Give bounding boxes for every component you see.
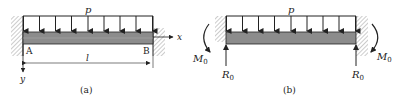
caption-a: (a) [80,85,92,95]
right-wall-hatch-b [356,16,368,56]
load-arrows-b [227,16,356,31]
left-wall-hatch-b [215,16,226,42]
figure-a: p x y A B l (a) [11,4,182,95]
reaction-label-right: R0 [351,69,364,82]
point-b-label: B [143,46,150,56]
y-axis-label: y [19,74,26,84]
moment-label-right: M0 [376,51,392,64]
load-arrows-a [24,16,153,31]
load-label-b: p [288,4,295,15]
moment-label-left: M0 [192,53,208,66]
moment-arrow-right [371,24,378,52]
right-wall-hatch-a [153,28,165,56]
x-axis-label: x [177,32,182,42]
beam-b [226,32,356,44]
figure-b: p R0 R0 M0 M0 (b) [192,4,392,95]
load-label-a: p [85,4,92,15]
caption-b: (b) [283,85,296,95]
length-label: l [86,53,89,63]
left-wall-hatch-a [11,16,23,56]
moment-arrow-left [204,24,210,52]
point-a-label: A [25,46,33,56]
reaction-label-left: R0 [221,69,234,82]
